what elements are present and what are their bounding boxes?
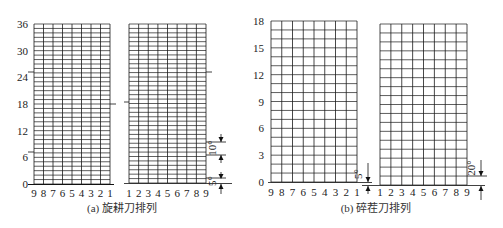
x-tick-label: 4: [322, 186, 328, 198]
left-x-labels-a: 987654321: [31, 187, 113, 199]
panel-a: 061218243036 987654321 123456789 10°: [17, 18, 232, 215]
x-tick-label: 8: [41, 187, 47, 199]
y-tick-label: 12: [17, 125, 28, 137]
y-tick-label: 18: [17, 98, 29, 110]
arrow-down-icon: [366, 177, 371, 182]
x-tick-label: 6: [60, 187, 66, 199]
arrow-down-icon: [219, 137, 224, 142]
x-tick-label: 1: [377, 186, 383, 198]
y-tick-label: 15: [253, 42, 265, 54]
left-grid-b: [271, 21, 357, 182]
x-tick-label: 8: [194, 187, 200, 199]
x-tick-label: 3: [146, 187, 152, 199]
x-tick-label: 4: [79, 187, 85, 199]
left-x-labels-b: 987654321: [268, 186, 360, 198]
arrow-up-icon: [219, 184, 224, 189]
right-x-labels-b: 123456789: [377, 186, 470, 198]
y-tick-label: 3: [259, 149, 265, 161]
x-tick-label: 6: [301, 186, 307, 198]
y-tick-label: 6: [259, 122, 265, 134]
arrow-up-icon: [219, 155, 224, 160]
x-tick-label: 6: [174, 187, 180, 199]
x-tick-label: 9: [268, 186, 274, 198]
x-tick-label: 8: [279, 186, 285, 198]
x-tick-label: 2: [98, 187, 104, 199]
right-x-labels-a: 123456789: [126, 187, 209, 199]
x-tick-label: 4: [155, 187, 161, 199]
y-axis-labels-a: 061218243036: [17, 18, 29, 190]
x-tick-label: 9: [31, 187, 37, 199]
x-tick-label: 3: [333, 186, 339, 198]
x-tick-label: 1: [354, 186, 360, 198]
dimension-label: 5°: [352, 169, 364, 179]
x-tick-label: 7: [184, 187, 190, 199]
y-tick-label: 36: [17, 18, 29, 30]
y-axis-labels-b: 0369121518: [253, 15, 265, 188]
caption-a: (a) 旋耕刀排列: [87, 201, 157, 215]
left-grid-a: [34, 24, 110, 184]
x-tick-label: 5: [165, 187, 171, 199]
x-tick-label: 9: [203, 187, 209, 199]
arrow-up-icon: [366, 186, 371, 191]
x-tick-label: 3: [399, 186, 405, 198]
x-tick-label: 2: [344, 186, 350, 198]
dimension-label: 5°: [206, 176, 218, 186]
y-tick-label: 18: [253, 15, 265, 27]
right-grid-a: [129, 24, 206, 183]
x-tick-label: 7: [50, 187, 56, 199]
blade-arrangement-diagram: 061218243036 987654321 123456789 10°: [0, 0, 503, 228]
x-tick-label: 5: [69, 187, 75, 199]
caption-b: (b) 碎茬刀排列: [341, 201, 412, 215]
x-tick-label: 7: [290, 186, 296, 198]
dimension-label: 20°: [465, 160, 477, 175]
x-tick-label: 8: [453, 186, 459, 198]
dimension-label: 10°: [206, 140, 218, 155]
y-tick-label: 9: [259, 96, 265, 108]
x-tick-label: 6: [432, 186, 438, 198]
dimension-10-degree: 10°: [206, 134, 226, 163]
panel-b: 0369121518 987654321 123456789 5° 20° (b…: [253, 15, 487, 215]
x-tick-label: 5: [311, 186, 317, 198]
x-tick-label: 7: [443, 186, 449, 198]
arrow-up-icon: [479, 186, 484, 191]
x-tick-label: 1: [107, 187, 113, 199]
x-tick-label: 1: [126, 187, 132, 199]
y-tick-label: 0: [23, 178, 29, 190]
x-tick-label: 2: [136, 187, 142, 199]
y-tick-label: 30: [17, 45, 29, 57]
y-tick-label: 6: [23, 151, 29, 163]
dimension-5-degree: 5°: [206, 172, 226, 194]
y-tick-label: 0: [259, 176, 265, 188]
x-tick-label: 5: [421, 186, 427, 198]
x-tick-label: 4: [410, 186, 416, 198]
y-tick-label: 12: [253, 69, 264, 81]
y-tick-label: 24: [17, 71, 29, 83]
x-tick-label: 2: [388, 186, 394, 198]
right-grid-b: [380, 24, 467, 185]
x-tick-label: 3: [88, 187, 94, 199]
x-tick-label: 9: [464, 186, 470, 198]
arrow-down-icon: [479, 171, 484, 176]
